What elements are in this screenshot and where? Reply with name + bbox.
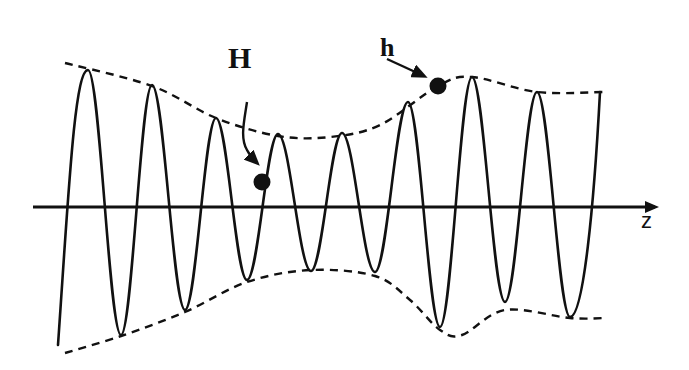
marker-label-H: H (228, 41, 251, 74)
marker-dot-h (430, 78, 447, 95)
wave-diagram: z H h (0, 0, 689, 370)
marker-dot-H (254, 174, 271, 191)
curved-arrow-icon-H (243, 102, 257, 163)
marker-label-h: h (380, 33, 395, 62)
arrow-icon-h (387, 59, 424, 76)
lower-envelope-curve (65, 270, 605, 353)
z-axis-label: z (641, 208, 652, 233)
